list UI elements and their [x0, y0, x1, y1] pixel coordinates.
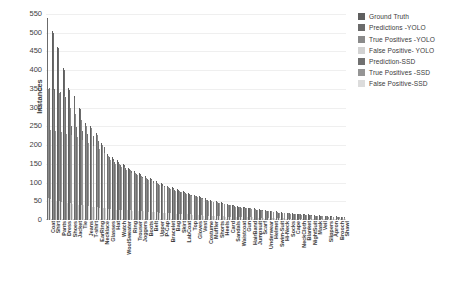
- x-axis-tick-labels: CoatShirtPantsDressShoesJacketTieJeansT-…: [46, 221, 346, 281]
- y-axis-tick-labels: 050100150200250300350400450500550: [16, 14, 42, 220]
- y-tick-label: 400: [16, 66, 42, 74]
- instances-bar-chart: Instances 050100150200250300350400450500…: [0, 0, 472, 282]
- legend-item-label: False Positive- YOLO: [369, 47, 434, 54]
- legend-item[interactable]: True Positives -SSD: [358, 68, 466, 78]
- y-tick-label: 200: [16, 141, 42, 149]
- y-tick-label: 500: [16, 29, 42, 37]
- y-tick-label: 300: [16, 104, 42, 112]
- legend-item-label: Prediction-SSD: [369, 58, 415, 65]
- legend-item-label: True Positives -SSD: [369, 69, 430, 76]
- legend-swatch-icon: [358, 13, 365, 20]
- y-tick-label: 0: [16, 216, 42, 224]
- plot-area: [46, 14, 346, 220]
- y-tick-label: 50: [16, 197, 42, 205]
- y-tick-label: 150: [16, 160, 42, 168]
- y-tick-label: 100: [16, 179, 42, 187]
- legend-item[interactable]: Ground Truth: [358, 12, 466, 22]
- legend-swatch-icon: [358, 47, 365, 54]
- y-tick-label: 250: [16, 122, 42, 130]
- legend-item[interactable]: False Positive- YOLO: [358, 46, 466, 56]
- legend-item-label: Predictions -YOLO: [369, 24, 426, 31]
- legend-item-label: True Positives -YOLO: [369, 36, 435, 43]
- legend-swatch-icon: [358, 36, 365, 43]
- legend-item[interactable]: Predictions -YOLO: [358, 23, 466, 33]
- y-tick-label: 350: [16, 85, 42, 93]
- y-tick-label: 450: [16, 47, 42, 55]
- legend-item-label: False Positive-SSD: [369, 80, 428, 87]
- legend-item[interactable]: Prediction-SSD: [358, 57, 466, 67]
- legend-swatch-icon: [358, 58, 365, 65]
- chart-legend: Ground TruthPredictions -YOLOTrue Positi…: [358, 12, 466, 90]
- legend-swatch-icon: [358, 69, 365, 76]
- legend-item[interactable]: False Positive-SSD: [358, 79, 466, 89]
- y-tick-label: 550: [16, 10, 42, 18]
- legend-item-label: Ground Truth: [369, 13, 409, 20]
- bar-group: [341, 14, 346, 220]
- x-tick-label: Shawl: [345, 221, 350, 237]
- legend-item[interactable]: True Positives -YOLO: [358, 34, 466, 44]
- legend-swatch-icon: [358, 80, 365, 87]
- legend-swatch-icon: [358, 24, 365, 31]
